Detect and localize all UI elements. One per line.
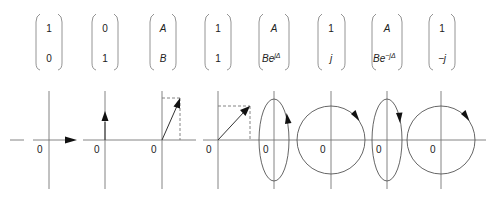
vector-top-entry: 1 (328, 23, 334, 34)
jones-vector-diagram: 1 0 0 1 A B 1 1 A BejΔ 1 j A Be−jΔ (0, 0, 495, 199)
right-bracket (58, 14, 62, 70)
vector-top-entry: 0 (102, 23, 108, 34)
left-bracket (205, 14, 209, 70)
left-bracket (429, 14, 433, 70)
left-bracket (36, 14, 40, 70)
jones-vector-8: 1 −j (429, 14, 455, 70)
arrow-clockwise-icon (461, 110, 470, 121)
origin-label: 0 (430, 144, 436, 155)
arrow-up-icon (102, 111, 109, 121)
vector-bottom-entry: j (328, 53, 333, 64)
jones-vector-3: A B (150, 14, 176, 70)
vector-top-entry: A (270, 23, 278, 34)
vector-bottom-entry: B (160, 53, 167, 64)
right-bracket (172, 14, 176, 70)
jones-vector-2: 0 1 (92, 14, 118, 70)
polarization-vector (162, 106, 177, 140)
vector-bottom-entry: BejΔ (262, 52, 281, 64)
jones-vector-7: A Be−jΔ (372, 14, 402, 70)
right-bracket (398, 14, 402, 70)
vector-top-entry: A (159, 23, 167, 34)
right-bracket (451, 14, 455, 70)
origin-label: 0 (94, 144, 100, 155)
jones-vector-6: 1 j (318, 14, 345, 70)
arrow-clockwise-icon (351, 110, 360, 121)
left-bracket (150, 14, 154, 70)
polarization-vector (218, 112, 244, 140)
right-bracket (114, 14, 118, 70)
arrow-diagonal-icon (174, 98, 181, 109)
right-bracket (285, 14, 289, 70)
vector-bottom-entry: 0 (46, 53, 52, 64)
jones-vector-4: 1 1 (205, 14, 231, 70)
vector-top-entry: 1 (439, 23, 445, 34)
origin-label: 0 (263, 144, 269, 155)
origin-label: 0 (151, 144, 157, 155)
right-bracket (227, 14, 231, 70)
left-bracket (92, 14, 96, 70)
vector-bottom-entry: Be−jΔ (373, 52, 396, 64)
vector-top-entry: A (383, 23, 391, 34)
origin-label: 0 (206, 144, 212, 155)
right-bracket (341, 14, 345, 70)
origin-label: 0 (320, 144, 326, 155)
vector-bottom-entry: −j (438, 53, 447, 64)
arrow-down-icon (396, 113, 403, 124)
vector-top-entry: 1 (46, 23, 52, 34)
jones-vector-5: A BejΔ (259, 14, 289, 70)
vector-bottom-entry: 1 (102, 53, 108, 64)
vector-top-entry: 1 (215, 23, 221, 34)
vector-bottom-entry: 1 (215, 53, 221, 64)
origin-label: 0 (37, 144, 43, 155)
left-bracket (318, 14, 322, 70)
jones-vector-1: 1 0 (36, 14, 62, 70)
arrow-right-icon (65, 137, 77, 144)
origin-label: 0 (376, 144, 382, 155)
